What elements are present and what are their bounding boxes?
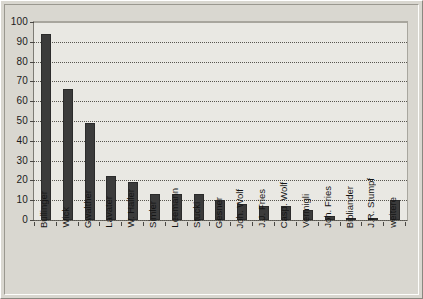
y-axis-tick-mark [30,81,34,82]
y-axis-tick-mark [30,161,34,162]
y-axis-tick-label: 80 [16,57,28,67]
y-axis-tick-label: 0 [22,215,28,225]
y-axis-tick-label: 60 [16,96,28,106]
x-axis-label-text: Lavater [103,196,114,228]
chart-container: 0102030405060708090100 BullingerWickGwal… [0,0,423,299]
x-axis-tick-mark [165,222,166,226]
x-axis-label-text: Casp. Wolf [278,182,289,228]
y-axis-tick-mark [30,42,34,43]
x-axis-label-text: Joh. Fries [322,186,333,228]
x-axis-label-text: Joh. Wolf [234,189,245,228]
bar-slot [210,22,232,220]
x-axis-label-text: Vermigli [300,194,311,228]
y-axis-tick-label: 30 [16,156,28,166]
x-axis-tick-mark [318,222,319,226]
bar[interactable] [63,89,73,220]
x-axis-labels: BullingerWickGwaltherLavaterW. HallerSim… [34,222,407,276]
x-axis-tick-mark [187,222,188,226]
y-axis-tick-mark [30,101,34,102]
x-axis-label-text: Gesner [213,197,224,228]
bar-slot [100,22,122,220]
x-axis-tick-mark [121,222,122,226]
y-axis-tick-label: 10 [16,195,28,205]
bar-slot [384,22,406,220]
x-axis-label-text: W. Haller [125,189,136,228]
y-axis-tick-mark [30,180,34,181]
x-axis-tick-mark [274,222,275,226]
bar-slot [57,22,79,220]
y-axis-tick-label: 40 [16,136,28,146]
y-axis-tick-mark [30,22,34,23]
x-axis-tick-mark [34,222,35,226]
x-axis-label-text: Gwalther [82,190,93,228]
x-axis-label-text: Leemann [169,188,180,228]
x-axis-tick-mark [383,222,384,226]
x-axis-tick-mark [143,222,144,226]
y-axis-tick-label: 90 [16,37,28,47]
x-axis-tick-mark [252,222,253,226]
bar-slot [188,22,210,220]
x-axis-tick-mark [340,222,341,226]
y-axis-tick-mark [30,220,34,221]
x-axis-tick-mark [209,222,210,226]
x-axis-tick-mark [296,222,297,226]
y-axis-tick-mark [30,62,34,63]
x-axis-tick-mark [361,222,362,226]
y-axis-tick-mark [30,121,34,122]
x-axis-tick-mark [56,222,57,226]
y-axis-tick-label: 20 [16,175,28,185]
bar-slot [144,22,166,220]
x-axis-tick-mark [230,222,231,226]
y-axis-tick-label: 50 [16,116,28,126]
x-axis-tick-mark [78,222,79,226]
x-axis-tick-mark [99,222,100,226]
x-axis-label-text: Bullinger [38,191,49,228]
x-axis-label-text: Simler [147,201,158,228]
y-axis-tick-mark [30,200,34,201]
x-axis-label-text: weitere [387,197,398,228]
x-axis-label-text: Wick [60,207,71,228]
y-axis-tick-mark [30,141,34,142]
bar-slot [297,22,319,220]
x-axis-label-text: Stucki [191,202,202,228]
x-axis-label-text: J.R. Stumpf [365,178,376,228]
y-axis-tick-label: 100 [11,17,28,27]
x-axis-tick-mark [405,222,406,226]
y-axis-tick-label: 70 [16,76,28,86]
x-axis-label-text: J.J. Fries [256,189,267,228]
x-axis-label-text: Bibliander [344,186,355,228]
